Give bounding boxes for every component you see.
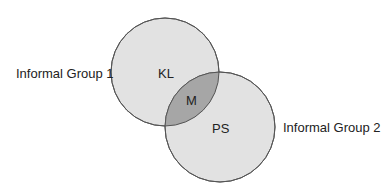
ps-region-label: PS (212, 121, 230, 136)
venn-diagram: Informal Group 1 Informal Group 2 KL M P… (0, 0, 385, 194)
intersection-label: M (186, 93, 197, 108)
group2-label: Informal Group 2 (283, 120, 381, 135)
kl-region-label: KL (158, 66, 174, 81)
group1-label: Informal Group 1 (16, 66, 114, 81)
